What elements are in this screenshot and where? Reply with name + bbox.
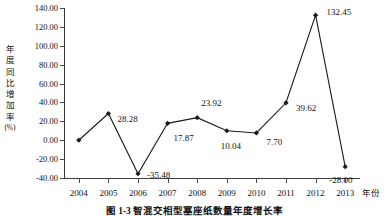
y-axis-title: 年 度 同 比 增 加 率 (%) — [2, 44, 18, 133]
x-tick-mark — [286, 179, 287, 183]
x-tick-label: 2010 — [247, 188, 265, 198]
x-tick-mark — [79, 179, 80, 183]
y-axis-title-char: 率 — [2, 112, 18, 123]
y-tick-label: 60.00 — [39, 79, 58, 88]
x-tick-mark — [108, 179, 109, 183]
x-tick-mark — [197, 179, 198, 183]
y-axis-title-char: 加 — [2, 100, 18, 111]
plot-area: 140.00120.00100.0080.0060.0040.0020.000.… — [64, 8, 360, 178]
y-tick-label: -40.00 — [36, 174, 58, 183]
x-tick-label: 2013 — [336, 188, 354, 198]
x-tick-label: 2005 — [99, 188, 117, 198]
data-point-label: -28.00 — [329, 176, 352, 185]
data-point-label: -35.48 — [147, 171, 170, 180]
figure-caption: 图 1-3 智混交相型塞座纸数量年度增长率 — [0, 206, 389, 216]
y-tick-label: 0.00 — [43, 136, 58, 145]
data-point-label: 10.04 — [221, 142, 241, 151]
data-point-marker — [165, 121, 170, 126]
data-point-marker — [343, 164, 348, 169]
x-tick-label: 2007 — [159, 188, 177, 198]
x-tick-label: 2004 — [70, 188, 88, 198]
y-axis-title-char: 同 — [2, 67, 18, 78]
y-tick-label: 20.00 — [39, 117, 58, 126]
y-tick-label: -20.00 — [36, 155, 58, 164]
y-tick-label: 100.00 — [35, 42, 58, 51]
x-tick-label: 2011 — [277, 188, 295, 198]
x-tick-mark — [227, 179, 228, 183]
y-axis-unit: (%) — [2, 123, 18, 133]
y-axis-title-char: 度 — [2, 55, 18, 66]
data-point-marker — [313, 13, 318, 18]
y-axis-title-char: 比 — [2, 78, 18, 89]
y-axis-title-char: 增 — [2, 89, 18, 100]
data-series-line — [64, 8, 360, 179]
y-tick-label: 140.00 — [35, 4, 58, 13]
series-polyline — [79, 15, 345, 174]
data-point-marker — [195, 115, 200, 120]
x-tick-label: 2008 — [188, 188, 206, 198]
data-point-label: 17.87 — [174, 134, 194, 143]
x-axis-title: 年份 — [362, 188, 380, 198]
y-axis-title-char: 年 — [2, 44, 18, 55]
data-point-label: 7.70 — [266, 138, 282, 147]
data-point-label: 132.45 — [327, 8, 352, 17]
data-point-label: 23.92 — [201, 99, 221, 108]
y-tick-label: 40.00 — [39, 98, 58, 107]
y-tick-label: 120.00 — [35, 23, 58, 32]
data-point-label: 39.62 — [296, 104, 316, 113]
y-tick-label: 80.00 — [39, 60, 58, 69]
x-tick-mark — [316, 179, 317, 183]
figure-container: 年 度 同 比 增 加 率 (%) 140.00120.00100.0080.0… — [0, 0, 389, 216]
x-tick-mark — [138, 179, 139, 183]
data-point-marker — [224, 128, 229, 133]
data-point-label: 28.28 — [117, 115, 137, 124]
x-tick-mark — [256, 179, 257, 183]
data-point-marker — [135, 171, 140, 176]
x-tick-label: 2006 — [129, 188, 147, 198]
x-tick-label: 2012 — [307, 188, 325, 198]
x-tick-label: 2009 — [218, 188, 236, 198]
